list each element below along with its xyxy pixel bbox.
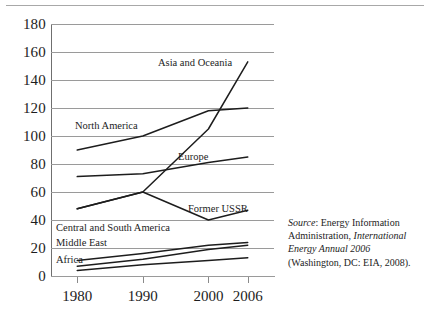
source-note: Source: Energy Information Administratio… xyxy=(288,216,426,269)
series-label: Europe xyxy=(178,151,208,162)
line-chart: 180160140120100806040200 198019902000200… xyxy=(0,0,300,326)
series-label: Asia and Oceania xyxy=(158,57,232,68)
series-label: Former USSR xyxy=(188,203,248,214)
series-label: Africa xyxy=(56,254,83,265)
series-label: Central and South America xyxy=(56,222,170,233)
source-imprint: (Washington, DC: EIA, 2008). xyxy=(288,257,411,268)
series-label: Middle East xyxy=(56,237,107,248)
series-lines xyxy=(0,0,300,326)
series-label: North America xyxy=(75,120,138,131)
series-line xyxy=(77,62,248,209)
source-label: Source xyxy=(288,217,315,228)
figure-energy-consumption-chart: 180160140120100806040200 198019902000200… xyxy=(0,0,429,326)
